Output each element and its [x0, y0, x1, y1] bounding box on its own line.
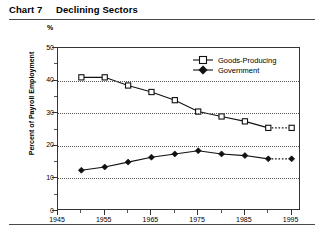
y-tick-label: 0	[28, 207, 54, 214]
x-tick-mark	[291, 210, 292, 215]
gridline	[58, 113, 299, 114]
gridline	[58, 178, 299, 179]
series-government	[78, 148, 294, 174]
data-point	[172, 98, 177, 103]
data-point	[126, 83, 131, 88]
data-point	[242, 153, 248, 159]
y-axis-title: Percent of Payroll Employment	[28, 29, 35, 179]
gridline	[58, 146, 299, 147]
x-tick-mark	[57, 210, 58, 215]
data-point	[79, 75, 84, 80]
data-point	[78, 167, 84, 173]
x-tick-label: 1955	[84, 216, 124, 223]
x-tick-label: 1975	[177, 216, 217, 223]
x-minor-tick-mark	[127, 210, 128, 213]
data-point	[102, 164, 108, 170]
x-tick-mark	[150, 210, 151, 215]
data-point	[172, 151, 178, 157]
x-tick-label: 1985	[224, 216, 264, 223]
data-point	[195, 148, 201, 154]
data-point	[149, 89, 154, 94]
series-markers-government	[78, 148, 294, 174]
x-tick-mark	[197, 210, 198, 215]
data-point	[266, 125, 271, 130]
data-point	[102, 75, 107, 80]
x-tick-label: 1965	[130, 216, 170, 223]
data-point	[125, 159, 131, 165]
legend-label: Government	[218, 66, 259, 76]
series-goods-producing	[79, 75, 294, 131]
gridline	[58, 81, 299, 82]
y-tick-label: 30	[28, 109, 54, 116]
y-tick-label: 20	[28, 141, 54, 148]
y-tick-label: 40	[28, 76, 54, 83]
data-point	[148, 154, 154, 160]
page-title: Declining Sectors	[56, 4, 138, 15]
x-tick-mark	[244, 210, 245, 215]
x-minor-tick-mark	[80, 210, 81, 213]
series-markers-goods-producing	[79, 75, 294, 131]
data-point	[289, 156, 295, 162]
x-tick-label: 1945	[37, 216, 77, 223]
plot-area: Goods-Producing Government	[57, 47, 300, 210]
x-minor-tick-mark	[174, 210, 175, 213]
x-tick-mark	[104, 210, 105, 215]
data-point	[219, 114, 224, 119]
chart-figure: % Percent of Payroll Employment Year 50 …	[0, 22, 324, 222]
data-point	[265, 156, 271, 162]
y-tick-label: 10	[28, 174, 54, 181]
legend-label: Goods-Producing	[218, 56, 276, 66]
chart-number: Chart 7	[9, 4, 42, 15]
header-divider	[9, 19, 315, 20]
data-point	[242, 119, 247, 124]
footer-divider	[9, 224, 315, 225]
open-square-marker-icon	[192, 55, 214, 65]
series-layer	[58, 48, 300, 210]
x-tick-label: 1995	[271, 216, 311, 223]
data-point	[289, 125, 294, 130]
y-tick-label: 50	[28, 44, 54, 51]
y-axis-unit-label: %	[47, 24, 53, 31]
x-minor-tick-mark	[221, 210, 222, 213]
data-point	[219, 151, 225, 157]
filled-diamond-marker-icon	[192, 65, 214, 75]
x-minor-tick-mark	[267, 210, 268, 213]
